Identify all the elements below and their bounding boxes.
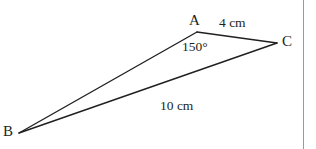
side-ac-length-label: 4 cm [219,16,246,30]
triangle-outline [19,32,277,133]
panel-right-divider [303,0,304,149]
side-bc-line [19,43,277,133]
side-ac-line [197,32,277,43]
vertex-label-a: A [189,13,200,28]
geometry-figure: A B C 4 cm 10 cm 150° [0,0,316,149]
vertex-label-b: B [3,124,13,139]
side-ab-line [19,32,197,133]
angle-a-measure-label: 150° [182,40,208,54]
triangle-drawing [0,0,316,149]
vertex-label-c: C [282,34,292,49]
side-bc-length-label: 10 cm [160,99,193,113]
